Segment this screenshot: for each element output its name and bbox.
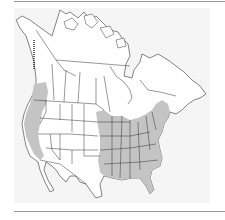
range-map (0, 0, 225, 220)
bottom-rule (14, 211, 225, 212)
